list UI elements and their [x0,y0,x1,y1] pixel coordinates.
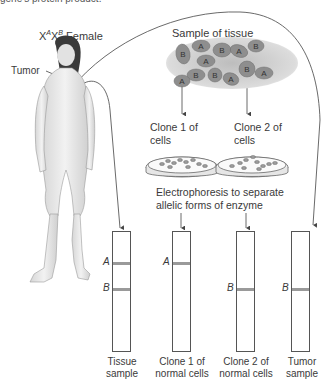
gel-caption-tumor-sample: Tumorsample [280,356,324,380]
gel-clone-1 [172,231,191,352]
band-a [173,262,190,265]
gel-caption-clone-2: Clone 2 ofnormal cells [216,356,276,380]
band-b [292,288,309,291]
band-a [113,262,130,265]
band-b [237,288,254,291]
gel-caption-tissue-sample: Tissuesample [100,356,144,380]
band-label-a: A [163,256,170,267]
gel-clone-2 [236,231,255,352]
gel-caption-clone-1: Clone 1 ofnormal cells [152,356,212,380]
band-label-b: B [103,282,110,293]
band-label-b: B [282,282,289,293]
gel-tissue-sample [112,231,131,352]
petri-dish-clone-2 [216,157,288,177]
band-b [113,288,130,291]
gel-tumor-sample [291,231,310,352]
electrophoresis-label: Electrophoresis to separateallelic forms… [156,186,284,212]
band-label-b: B [227,282,234,293]
band-label-a: A [103,256,110,267]
